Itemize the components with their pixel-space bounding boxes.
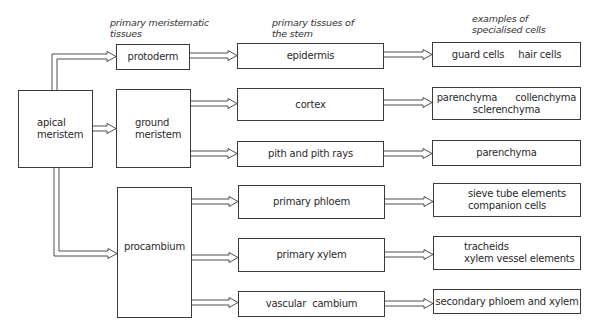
node-label: procambium [124, 241, 185, 253]
node-pith-and-pith-rays: pith and pith rays [237, 141, 384, 167]
node-label: epidermis [287, 50, 335, 62]
cell-label: hair cells [518, 49, 561, 61]
node-procambium: procambium [117, 187, 192, 318]
node-label: primary xylem [276, 249, 346, 261]
cell-label: sieve tube elements [468, 188, 566, 200]
node-label: cortex [295, 99, 325, 111]
node-cells-cortex: parenchyma collenchyma sclerenchyma [432, 87, 581, 120]
node-cells-primary-xylem: tracheids xylem vessel elements [433, 236, 581, 270]
node-label: meristem [135, 129, 181, 141]
node-label: apical [37, 117, 65, 129]
node-epidermis: epidermis [237, 43, 384, 69]
node-ground-meristem: ground meristem [116, 89, 191, 168]
node-label: ground [135, 117, 169, 129]
cell-label: guard cells [452, 49, 505, 61]
node-cells-epidermis: guard cells hair cells [432, 42, 581, 67]
cell-label: parenchyma [437, 92, 497, 104]
cell-label: companion cells [468, 200, 546, 212]
cell-label: collenchyma [515, 92, 576, 104]
node-primary-phloem: primary phloem [238, 185, 385, 219]
cell-label: sclerenchyma [473, 104, 540, 116]
cell-label: xylem vessel elements [464, 253, 575, 265]
node-label: protoderm [128, 51, 179, 63]
node-label: meristem [37, 129, 83, 141]
cell-label: tracheids [464, 241, 509, 253]
node-apical-meristem: apical meristem [18, 90, 93, 168]
node-label: pith and pith rays [268, 148, 353, 160]
node-protoderm: protoderm [116, 44, 190, 70]
node-cells-primary-phloem: sieve tube elements companion cells [433, 183, 581, 217]
cell-label: secondary phloem and xylem [436, 296, 579, 308]
node-label: primary phloem [273, 196, 350, 208]
node-primary-xylem: primary xylem [238, 238, 385, 272]
node-cells-vascular-cambium: secondary phloem and xylem [433, 289, 581, 314]
node-cortex: cortex [237, 88, 384, 121]
node-cells-pith: parenchyma [432, 140, 581, 166]
node-vascular-cambium: vascular cambium [238, 291, 385, 317]
node-label: vascular cambium [266, 298, 358, 310]
cell-label: parenchyma [476, 147, 536, 159]
